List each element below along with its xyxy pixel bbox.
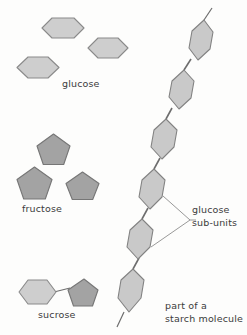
- starch-hexagon-4: [139, 169, 165, 209]
- fructose-pentagon-2: [17, 167, 52, 199]
- fructose-group: [17, 134, 99, 200]
- starch-bond-2: [166, 108, 172, 119]
- starch-hexagon-1: [189, 20, 213, 60]
- leader-upper: [163, 196, 190, 220]
- starch-hexagon-2: [169, 70, 194, 109]
- glucose-hexagon-1: [42, 18, 84, 38]
- starch-bond-5: [133, 258, 139, 269]
- fructose-pentagon-3: [66, 172, 99, 200]
- starch-bond-4: [142, 208, 148, 219]
- label-glucose: glucose: [62, 78, 100, 91]
- molecule-diagram: [0, 0, 247, 335]
- label-fructose: fructose: [22, 203, 62, 216]
- starch-bond-1: [184, 59, 191, 70]
- sucrose-pentagon: [68, 279, 98, 306]
- leader-lower: [151, 220, 190, 247]
- label-sucrose: sucrose: [38, 309, 76, 322]
- glucose-hexagon-3: [17, 57, 59, 78]
- starch-chain-group: [117, 8, 213, 327]
- starch-bond-3: [154, 158, 160, 169]
- subunits-leader-lines: [151, 196, 196, 247]
- label-starch-molecule: part of a starch molecule: [165, 300, 243, 325]
- starch-open-bond-bottom: [117, 312, 124, 327]
- glucose-group: [17, 18, 128, 78]
- starch-open-bond-top: [204, 8, 212, 20]
- sucrose-group: [19, 279, 98, 306]
- starch-hexagon-6: [118, 269, 144, 312]
- label-glucose-subunits: glucose sub-units: [192, 204, 237, 229]
- label-glucose-subunits-line1: glucose: [192, 204, 237, 217]
- glucose-hexagon-2: [88, 38, 128, 58]
- diagram-canvas: glucose fructose sucrose glucose sub-uni…: [0, 0, 247, 335]
- label-starch-line1: part of a: [165, 300, 243, 313]
- label-starch-line2: starch molecule: [165, 313, 243, 326]
- starch-hexagon-5: [127, 219, 153, 259]
- starch-hexagon-3: [151, 119, 177, 159]
- label-glucose-subunits-line2: sub-units: [192, 217, 237, 230]
- fructose-pentagon-1: [37, 134, 70, 165]
- sucrose-hexagon: [19, 280, 56, 304]
